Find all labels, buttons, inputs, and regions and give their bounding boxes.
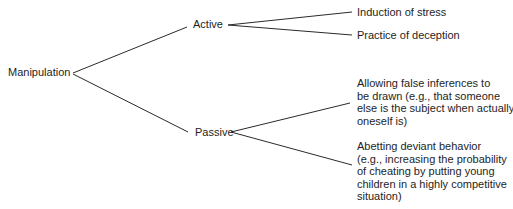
leaf-text-line: situation) <box>357 190 513 203</box>
edge-passive-false-inferences <box>231 103 350 132</box>
leaf-text-line: of cheating by putting young <box>357 165 513 178</box>
leaf-induction-of-stress: Induction of stress <box>357 6 446 18</box>
leaf-abetting-deviant-behavior: Abetting deviant behavior (e.g., increas… <box>357 140 513 203</box>
edge-passive-abetting <box>231 132 352 165</box>
edge-active-deception <box>228 25 352 35</box>
leaf-text-line: oneself is) <box>357 115 513 128</box>
node-passive: Passive <box>195 126 234 138</box>
node-active: Active <box>193 18 223 30</box>
edge-active-induction <box>228 12 352 25</box>
leaf-text-line: Abetting deviant behavior <box>357 140 513 153</box>
leaf-text-line: (e.g., increasing the probability <box>357 153 513 166</box>
leaf-text-line: children in a highly competitive <box>357 178 513 191</box>
edge-manipulation-passive <box>73 74 188 132</box>
leaf-text-line: else is the subject when actually <box>357 102 513 115</box>
leaf-practice-of-deception: Practice of deception <box>357 29 460 41</box>
leaf-text-line: be drawn (e.g., that someone <box>357 90 513 103</box>
leaf-text-line: Allowing false inferences to <box>357 77 513 90</box>
node-manipulation: Manipulation <box>8 66 70 78</box>
edge-manipulation-active <box>73 27 187 73</box>
leaf-allowing-false-inferences: Allowing false inferences to be drawn (e… <box>357 77 513 127</box>
